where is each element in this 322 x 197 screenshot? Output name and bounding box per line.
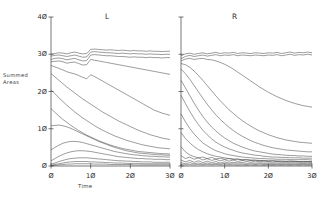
x-tick-label-R-1: 1Ø [219, 172, 231, 180]
plot-canvas [0, 0, 322, 197]
series-L2 [51, 52, 170, 58]
panel-R [179, 17, 313, 169]
series-L10 [51, 141, 170, 157]
x-tick-label-L-1: 1Ø [85, 172, 97, 180]
x-tick-label-R-2: 2Ø [262, 172, 274, 180]
series-L11 [51, 151, 170, 161]
x-tick-label-L-0: Ø [45, 172, 57, 180]
series-R5 [181, 69, 312, 152]
series-R8 [181, 114, 312, 160]
chart-figure: Summed Areas Time L R Ø1Ø2Ø3Ø4ØØ1Ø2Ø3ØØ1… [0, 0, 322, 197]
series-L1 [51, 49, 170, 54]
series-L7 [51, 90, 170, 149]
y-tick-label-3: 3Ø [33, 50, 47, 58]
series-L9 [51, 125, 170, 155]
y-tick-label-1: 1Ø [33, 125, 47, 133]
series-R3 [181, 58, 312, 107]
x-tick-label-R-0: Ø [175, 172, 187, 180]
series-L8 [51, 109, 170, 154]
series-R2 [181, 54, 312, 58]
y-tick-label-2: 2Ø [33, 88, 47, 96]
x-tick-label-R-3: 3Ø [306, 172, 318, 180]
series-L3 [51, 55, 170, 61]
series-L12 [51, 158, 170, 164]
series-L5 [51, 65, 170, 115]
series-L14 [51, 164, 170, 166]
series-R6 [181, 80, 312, 156]
series-L6 [51, 74, 170, 140]
panel-L [49, 17, 171, 169]
series-R4 [181, 64, 312, 144]
y-tick-label-0: Ø [33, 162, 47, 170]
x-tick-label-L-2: 2Ø [124, 172, 136, 180]
y-tick-label-4: 4Ø [33, 13, 47, 21]
